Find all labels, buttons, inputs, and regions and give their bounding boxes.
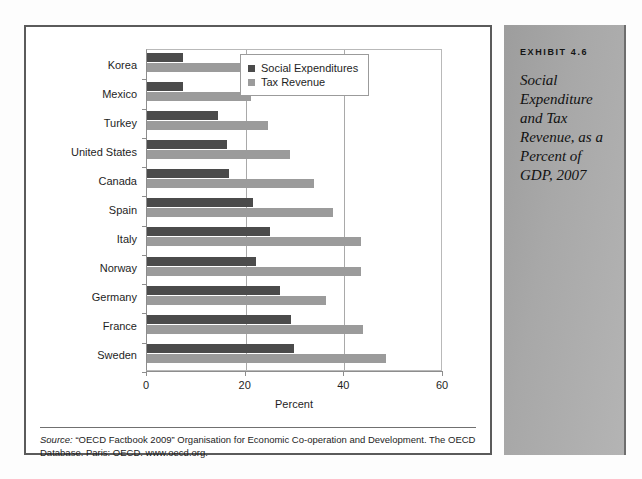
source-label: Source: xyxy=(40,434,73,445)
chart-legend: Social Expenditures Tax Revenue xyxy=(240,54,369,96)
source-note: Source: “OECD Factbook 2009” Organisatio… xyxy=(40,433,480,459)
bar-row: Norway xyxy=(147,254,441,283)
bar-social-expenditures xyxy=(147,111,218,120)
bar-tax-revenue xyxy=(147,150,290,159)
y-axis-tick xyxy=(142,196,147,197)
y-axis-label-france: France xyxy=(103,320,137,332)
legend-label-social-expenditures: Social Expenditures xyxy=(261,62,358,74)
y-axis-tick xyxy=(142,138,147,139)
exhibit-sidebar: EXHIBIT 4.6 Social Expenditure and Tax R… xyxy=(504,25,626,455)
x-tick-mark xyxy=(442,371,443,376)
bar-row: Canada xyxy=(147,166,441,195)
legend-swatch-tax-revenue xyxy=(248,79,255,86)
y-axis-label-mexico: Mexico xyxy=(102,88,137,100)
y-axis-label-spain: Spain xyxy=(109,204,137,216)
bar-tax-revenue xyxy=(147,92,251,101)
bar-tax-revenue xyxy=(147,354,386,363)
y-axis-label-united-states: United States xyxy=(71,146,137,158)
bar-social-expenditures xyxy=(147,82,183,91)
x-tick-label: 20 xyxy=(239,379,251,391)
source-divider xyxy=(40,427,476,428)
bar-social-expenditures xyxy=(147,169,229,178)
bar-social-expenditures xyxy=(147,227,270,236)
plot-area: KoreaMexicoTurkeyUnited StatesCanadaSpai… xyxy=(146,49,442,371)
bar-row: France xyxy=(147,312,441,341)
bar-social-expenditures xyxy=(147,140,227,149)
y-axis-tick xyxy=(142,313,147,314)
bar-social-expenditures xyxy=(147,315,291,324)
y-axis-tick xyxy=(142,343,147,344)
x-tick-mark xyxy=(245,371,246,376)
bar-tax-revenue xyxy=(147,325,363,334)
exhibit-page: KoreaMexicoTurkeyUnited StatesCanadaSpai… xyxy=(0,0,642,479)
y-axis-label-germany: Germany xyxy=(92,291,137,303)
chart-area: KoreaMexicoTurkeyUnited StatesCanadaSpai… xyxy=(26,27,490,419)
bar-tax-revenue xyxy=(147,296,326,305)
bar-row: Spain xyxy=(147,195,441,224)
y-axis-tick xyxy=(142,255,147,256)
x-tick-mark xyxy=(343,371,344,376)
legend-item: Tax Revenue xyxy=(248,76,358,88)
legend-label-tax-revenue: Tax Revenue xyxy=(261,76,325,88)
bar-social-expenditures xyxy=(147,286,280,295)
x-axis-line xyxy=(146,371,442,372)
bar-row: Germany xyxy=(147,283,441,312)
bar-row: Turkey xyxy=(147,108,441,137)
x-tick-label: 0 xyxy=(143,379,149,391)
y-axis-label-sweden: Sweden xyxy=(97,349,137,361)
bar-tax-revenue xyxy=(147,267,361,276)
bar-row: Italy xyxy=(147,224,441,253)
y-axis-label-canada: Canada xyxy=(98,175,137,187)
y-axis-tick xyxy=(142,167,147,168)
x-tick-label: 40 xyxy=(337,379,349,391)
bar-social-expenditures xyxy=(147,198,253,207)
exhibit-title: Social Expenditure and Tax Revenue, as a… xyxy=(520,71,610,185)
y-axis-tick xyxy=(142,79,147,80)
legend-item: Social Expenditures xyxy=(248,62,358,74)
bar-rows: KoreaMexicoTurkeyUnited StatesCanadaSpai… xyxy=(147,50,441,370)
bar-row: Sweden xyxy=(147,341,441,370)
bar-social-expenditures xyxy=(147,344,294,353)
bar-tax-revenue xyxy=(147,208,333,217)
y-axis-tick xyxy=(142,109,147,110)
bar-tax-revenue xyxy=(147,179,314,188)
y-axis-label-korea: Korea xyxy=(108,59,137,71)
bar-tax-revenue xyxy=(147,121,268,130)
exhibit-number: EXHIBIT 4.6 xyxy=(520,47,610,57)
bar-social-expenditures xyxy=(147,257,256,266)
y-axis-tick xyxy=(142,226,147,227)
bar-tax-revenue xyxy=(147,237,361,246)
bar-social-expenditures xyxy=(147,53,183,62)
bar-row: United States xyxy=(147,137,441,166)
x-axis-title: Percent xyxy=(146,398,442,410)
legend-swatch-social-expenditures xyxy=(248,65,255,72)
y-axis-label-turkey: Turkey xyxy=(104,117,137,129)
y-axis-label-italy: Italy xyxy=(117,233,137,245)
source-text: “OECD Factbook 2009” Organisation for Ec… xyxy=(40,434,475,458)
y-axis-tick xyxy=(142,284,147,285)
y-axis-label-norway: Norway xyxy=(100,262,137,274)
exhibit-frame: KoreaMexicoTurkeyUnited StatesCanadaSpai… xyxy=(24,25,492,455)
x-tick-mark xyxy=(146,371,147,376)
x-tick-label: 60 xyxy=(436,379,448,391)
